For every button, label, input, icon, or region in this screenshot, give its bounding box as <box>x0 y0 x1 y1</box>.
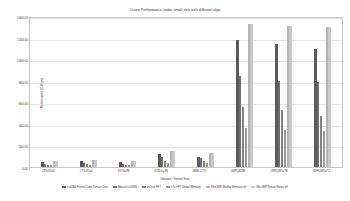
bar <box>94 160 97 167</box>
x-axis-tick-label: LWFQW5x7N <box>270 169 287 173</box>
y-axis-tick-label: 200.00 <box>6 145 28 149</box>
x-axis-tick-label: CTS-K5x5 <box>80 169 93 173</box>
x-axis-ticks: CTS-K3x3CTS-K5x5K3-Nx3NK5N-Lg3NMNK-CT3LW… <box>29 169 343 173</box>
bar <box>289 26 292 167</box>
legend-item[interactable]: Win-IMP Shalloy Memory ref <box>206 185 246 189</box>
chart-legend: cuDNN Fused Conv-Tensor CoreManual cuDNN… <box>0 185 350 189</box>
x-axis-tick-label: CTS-K3x3 <box>42 169 55 173</box>
bar-group <box>314 18 331 167</box>
legend-item[interactable]: cTe-FFT Global Memory <box>166 185 201 189</box>
legend-swatch <box>251 186 255 189</box>
legend-label: Win-IMP Tensor Matrix ref <box>256 185 288 189</box>
bar-groups <box>30 18 342 167</box>
chart-figure: Crane Performance under small size with … <box>0 0 350 201</box>
legend-swatch <box>142 186 146 189</box>
legend-label: cuDNN Fused Conv-Tensor Core <box>67 185 107 189</box>
legend-label: im2col-FFT <box>147 185 161 189</box>
bar <box>172 151 175 167</box>
bar-group <box>158 18 175 167</box>
bar-group <box>119 18 136 167</box>
bar-group <box>80 18 97 167</box>
legend-swatch <box>62 186 66 189</box>
bar <box>211 153 214 167</box>
y-axis-tick-label: 800.00 <box>6 81 28 85</box>
x-axis-label: Dataset - Kernel Size <box>0 177 350 181</box>
bar-group <box>236 18 253 167</box>
y-axis-tick-label: 1200.00 <box>6 38 28 42</box>
y-axis-tick-label: 600.00 <box>6 102 28 106</box>
x-axis-tick-label: LWFQW3x7-2 <box>313 169 331 173</box>
bar-group <box>197 18 214 167</box>
legend-item[interactable]: Manual cuDNN <box>113 185 137 189</box>
y-axis-tick-label: 1000.00 <box>6 59 28 63</box>
legend-swatch <box>206 186 210 189</box>
x-axis-tick-label: K3-Nx3N <box>118 169 129 173</box>
bar <box>133 161 136 167</box>
bar <box>328 27 331 167</box>
y-axis-tick-label: 400.00 <box>6 124 28 128</box>
legend-label: cTe-FFT Global Memory <box>171 185 201 189</box>
legend-swatch <box>166 186 170 189</box>
y-axis-tick-label: 1400.00 <box>6 16 28 20</box>
bar-group <box>41 18 58 167</box>
legend-item[interactable]: im2col-FFT <box>142 185 161 189</box>
legend-item[interactable]: Win-IMP Tensor Matrix ref <box>251 185 288 189</box>
x-axis-tick-label: MNK-CT3 <box>193 169 206 173</box>
legend-item[interactable]: cuDNN Fused Conv-Tensor Core <box>62 185 108 189</box>
x-axis-tick-label: K5N-Lg3N <box>155 169 168 173</box>
y-axis-tick-label: 0.00 <box>6 167 28 171</box>
legend-label: Win-IMP Shalloy Memory ref <box>211 185 246 189</box>
x-axis-tick-label: LWFQW3M <box>231 169 246 173</box>
bar <box>55 161 58 167</box>
bar <box>250 24 253 167</box>
legend-swatch <box>113 186 117 189</box>
legend-label: Manual cuDNN <box>118 185 137 189</box>
plot-area: Performance (GFlops) 0.00200.00400.00600… <box>29 17 343 168</box>
chart-title: Crane Performance under small size with … <box>0 8 350 13</box>
bar-group <box>275 18 292 167</box>
